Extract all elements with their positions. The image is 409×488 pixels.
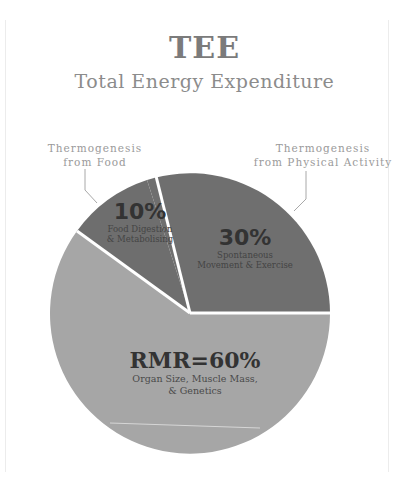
wedge-label-activity: 30% Spontaneous Movement & Exercise — [190, 226, 300, 270]
rmr-desc-line1: Organ Size, Muscle Mass, — [110, 373, 280, 385]
activity-desc-line1: Spontaneous — [190, 250, 300, 260]
rmr-desc-line2: & Genetics — [110, 385, 280, 397]
activity-desc-line2: Movement & Exercise — [190, 260, 300, 270]
food-desc-line2: & Metabolising — [100, 234, 180, 244]
rmr-percent: RMR=60% — [110, 347, 280, 373]
leader-line-food — [85, 169, 97, 203]
leader-line-activity — [294, 171, 306, 211]
food-percent: 10% — [100, 200, 180, 224]
wedge-label-food: 10% Food Digestion & Metabolising — [100, 200, 180, 244]
activity-percent: 30% — [190, 226, 300, 250]
food-desc-line1: Food Digestion — [100, 224, 180, 234]
wedge-label-rmr: RMR=60% Organ Size, Muscle Mass, & Genet… — [110, 347, 280, 397]
